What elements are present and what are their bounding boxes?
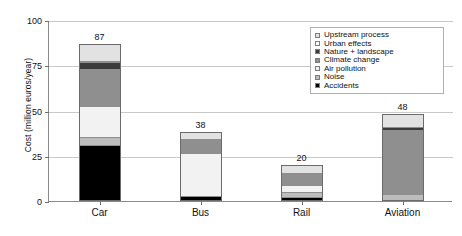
bar-total-label: 48	[397, 103, 407, 112]
legend-swatch-icon	[315, 33, 320, 38]
legend-swatch-icon	[315, 75, 320, 80]
bar-segment-climate-change	[282, 174, 322, 186]
x-axis-tick	[201, 201, 202, 205]
y-axis-tick	[45, 202, 49, 203]
legend-swatch-icon	[315, 58, 320, 63]
bar-segment-noise	[80, 138, 120, 146]
x-axis-tick	[100, 201, 101, 205]
bar-total-label: 87	[94, 33, 104, 42]
gridline	[49, 21, 453, 22]
legend-item-label: Accidents	[324, 82, 359, 90]
bar-bus: 38	[180, 132, 222, 201]
x-axis-label-car: Car	[91, 208, 107, 218]
bar-rail: 20	[281, 165, 323, 201]
legend-swatch-icon	[315, 41, 320, 46]
chart-legend: Upstream processUrban effectsNature + la…	[310, 27, 444, 94]
bar-segment-upstream-process	[282, 166, 322, 175]
y-axis-tick	[45, 157, 49, 158]
bar-segment-accidents	[282, 198, 322, 200]
y-axis-tick	[45, 112, 49, 113]
bar-segment-upstream-process	[383, 115, 423, 127]
y-axis-tick-label: 0	[37, 198, 42, 207]
bar-segment-climate-change	[80, 70, 120, 108]
legend-item-label: Upstream process	[324, 31, 389, 39]
bar-segment-air-pollution	[80, 107, 120, 138]
legend-swatch-icon	[315, 66, 320, 71]
y-axis-tick-label: 25	[32, 152, 42, 161]
legend-swatch-icon	[315, 49, 320, 54]
bar-segment-accidents	[181, 197, 221, 201]
bar-segment-accidents	[80, 146, 120, 200]
bar-segment-climate-change	[383, 131, 423, 195]
bar-segment-air-pollution	[282, 186, 322, 193]
x-axis-tick	[403, 201, 404, 205]
x-axis-tick	[302, 201, 303, 205]
bar-total-label: 38	[195, 121, 205, 130]
bar-segment-upstream-process	[80, 45, 120, 62]
bar-segment-upstream-process	[181, 133, 221, 140]
bar-segment-climate-change	[181, 140, 221, 154]
y-axis-tick	[45, 21, 49, 22]
x-axis-label-rail: Rail	[293, 208, 310, 218]
legend-item-label: Noise	[324, 73, 344, 81]
legend-swatch-icon	[315, 83, 320, 88]
y-axis-tick-label: 50	[32, 107, 42, 116]
bar-segment-noise	[383, 195, 423, 200]
stacked-bar-chart: Cost (million euros/year) 0255075100 873…	[0, 0, 462, 236]
y-axis-tick	[45, 66, 49, 67]
x-axis-label-aviation: Aviation	[385, 208, 420, 218]
x-axis-label-bus: Bus	[192, 208, 209, 218]
bar-segment-air-pollution	[181, 154, 221, 196]
y-axis-tick-label: 100	[27, 17, 42, 26]
bar-car: 87	[79, 44, 121, 201]
legend-item: Accidents	[315, 81, 439, 89]
bar-total-label: 20	[296, 154, 306, 163]
bar-aviation: 48	[382, 114, 424, 201]
y-axis-tick-label: 75	[32, 62, 42, 71]
